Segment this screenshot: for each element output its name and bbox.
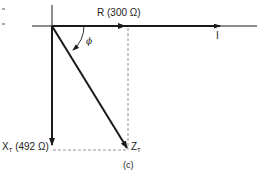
reactance-subscript: T [9, 147, 13, 153]
current-label: I [216, 31, 219, 41]
figure-caption: (c) [123, 160, 134, 170]
reactance-label: XT (492 Ω) [2, 142, 49, 155]
phi-symbol: ϕ [86, 36, 92, 46]
resistance-label: R (300 Ω) [97, 8, 141, 18]
reactance-symbol: X [2, 141, 9, 152]
impedance-subscript: T [137, 147, 141, 153]
resistance-value: (300 Ω) [107, 7, 141, 18]
phasor-diagram: R (300 Ω) I ϕ XT (492 Ω) ZT (c) [0, 0, 257, 172]
phase-angle-arc [73, 26, 84, 50]
resistance-symbol: R [97, 7, 104, 18]
current-symbol: I [216, 30, 219, 41]
reactance-value: (492 Ω) [15, 141, 49, 152]
impedance-label: ZT [131, 142, 141, 155]
phase-angle-label: ϕ [86, 36, 92, 46]
